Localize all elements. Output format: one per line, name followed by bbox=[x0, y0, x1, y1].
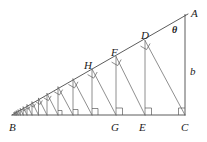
label-B: B bbox=[9, 122, 16, 133]
perp-segment-9 bbox=[27, 105, 32, 115]
perp-E-to-F bbox=[116, 57, 145, 116]
label-A: A bbox=[191, 8, 198, 19]
base-right-angle-4 bbox=[73, 110, 78, 116]
label-C: C bbox=[181, 122, 188, 133]
label-b: b bbox=[190, 66, 196, 77]
right-angle-marks-hypotenuse bbox=[22, 44, 150, 111]
label-G: G bbox=[111, 122, 119, 133]
label-H: H bbox=[84, 60, 92, 71]
label-E: E bbox=[139, 122, 146, 133]
geometry-figure: A θ b D F H B G E C bbox=[0, 0, 207, 142]
perp-segment-7 bbox=[39, 98, 48, 115]
perp-G-to-H bbox=[92, 69, 116, 115]
triangle-diagram-svg bbox=[0, 0, 207, 142]
base-right-angle-5 bbox=[58, 111, 62, 116]
base-right-angle-G bbox=[116, 108, 123, 115]
base-right-angle-E bbox=[145, 108, 152, 115]
label-F: F bbox=[111, 47, 118, 58]
base-right-angle-H-foot bbox=[92, 109, 98, 116]
label-D: D bbox=[141, 30, 149, 41]
perp-segment-6 bbox=[47, 94, 58, 116]
right-angle-mark-H bbox=[88, 72, 98, 78]
label-theta: θ bbox=[172, 25, 177, 35]
perp-C-to-D bbox=[145, 41, 185, 116]
